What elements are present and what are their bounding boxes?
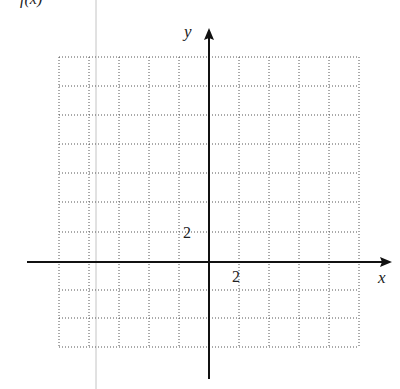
x-tick-label: 2 bbox=[232, 268, 240, 285]
y-tick-label: 2 bbox=[183, 224, 191, 241]
coordinate-grid-figure: y x 2 2 f(x) bbox=[0, 0, 400, 389]
y-axis-label: y bbox=[182, 22, 192, 41]
function-label-partial: f(x) bbox=[20, 0, 42, 8]
x-axis-label: x bbox=[377, 268, 386, 287]
